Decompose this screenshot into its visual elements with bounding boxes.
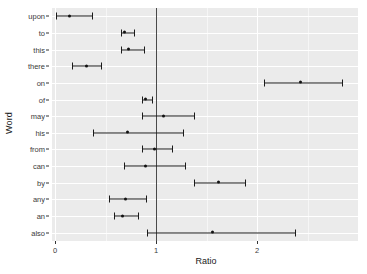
gridline-minor xyxy=(308,8,309,241)
interval-by xyxy=(52,178,358,187)
y-tick-label-upon: upon xyxy=(28,12,45,21)
interval-an xyxy=(52,212,358,221)
whisker-cap-low xyxy=(93,129,94,136)
whisker-cap-high xyxy=(92,13,93,20)
interval-his xyxy=(52,128,358,137)
y-tick-label-of: of xyxy=(39,95,45,104)
interval-of xyxy=(52,95,358,104)
whisker-cap-low xyxy=(72,63,73,70)
whisker-cap-high xyxy=(144,46,145,53)
x-tick-label-1: 1 xyxy=(154,246,158,255)
y-tick-mark xyxy=(46,216,49,217)
plot-panel xyxy=(52,8,358,241)
y-tick-label-may: may xyxy=(31,112,45,121)
whisker-cap-high xyxy=(342,79,343,86)
x-tick-label-2: 2 xyxy=(255,246,259,255)
interval-there xyxy=(52,62,358,71)
whisker-line xyxy=(142,116,195,117)
interval-any xyxy=(52,195,358,204)
x-tick-mark xyxy=(55,241,56,244)
estimate-point xyxy=(144,164,147,167)
whisker-cap-high xyxy=(183,129,184,136)
whisker-cap-low xyxy=(109,196,110,203)
y-tick-mark xyxy=(46,166,49,167)
estimate-point xyxy=(153,147,156,150)
interval-can xyxy=(52,162,358,171)
whisker-cap-low xyxy=(124,163,125,170)
whisker-cap-high xyxy=(134,29,135,36)
whisker-cap-high xyxy=(194,113,195,120)
whisker-cap-high xyxy=(172,146,173,153)
y-tick-mark xyxy=(46,82,49,83)
y-tick-mark xyxy=(46,32,49,33)
whisker-cap-high xyxy=(152,96,153,103)
reference-line xyxy=(156,8,157,241)
x-tick-label-0: 0 xyxy=(53,246,57,255)
whisker-cap-low xyxy=(56,13,57,20)
y-tick-label-on: on xyxy=(37,78,45,87)
x-tick-mark xyxy=(257,241,258,244)
interval-this xyxy=(52,45,358,54)
whisker-line xyxy=(147,232,295,233)
whisker-line xyxy=(142,149,172,150)
y-tick-mark xyxy=(46,16,49,17)
estimate-point xyxy=(162,114,165,117)
estimate-point xyxy=(211,231,214,234)
whisker-cap-low xyxy=(194,179,195,186)
y-tick-mark xyxy=(46,232,49,233)
whisker-cap-low xyxy=(142,146,143,153)
interval-on xyxy=(52,78,358,87)
y-tick-label-by: by xyxy=(37,178,45,187)
y-tick-label-also: also xyxy=(31,228,45,237)
interval-also xyxy=(52,228,358,237)
y-tick-label-there: there xyxy=(28,62,45,71)
estimate-point xyxy=(124,197,127,200)
y-tick-mark xyxy=(46,182,49,183)
whisker-cap-high xyxy=(138,213,139,220)
interval-from xyxy=(52,145,358,154)
whisker-cap-high xyxy=(101,63,102,70)
whisker-line xyxy=(114,216,138,217)
y-tick-label-can: can xyxy=(33,162,45,171)
y-tick-mark xyxy=(46,66,49,67)
interval-to xyxy=(52,28,358,37)
whisker-cap-high xyxy=(185,163,186,170)
interval-may xyxy=(52,112,358,121)
whisker-cap-high xyxy=(295,229,296,236)
y-tick-mark xyxy=(46,99,49,100)
y-tick-label-from: from xyxy=(30,145,45,154)
y-tick-mark xyxy=(46,149,49,150)
estimate-point xyxy=(127,48,130,51)
forest-plot-chart: Word upontothisthereonofmayhisfromcanbya… xyxy=(0,0,367,274)
whisker-cap-low xyxy=(142,96,143,103)
whisker-line xyxy=(264,82,342,83)
whisker-line xyxy=(109,199,146,200)
whisker-cap-low xyxy=(114,213,115,220)
x-axis-title: Ratio xyxy=(55,256,357,266)
estimate-point xyxy=(144,98,147,101)
estimate-point xyxy=(126,131,129,134)
x-tick-mark xyxy=(156,241,157,244)
y-tick-mark xyxy=(46,49,49,50)
y-tick-mark xyxy=(46,116,49,117)
whisker-line xyxy=(56,16,92,17)
whisker-cap-low xyxy=(121,46,122,53)
estimate-point xyxy=(123,31,126,34)
gridline-major-x xyxy=(55,8,56,241)
y-tick-label-to: to xyxy=(39,28,45,37)
whisker-line xyxy=(121,49,144,50)
whisker-line xyxy=(93,132,183,133)
estimate-point xyxy=(68,14,71,17)
x-axis-tick-labels: 012 xyxy=(52,241,358,255)
estimate-point xyxy=(85,64,88,67)
whisker-cap-low xyxy=(121,29,122,36)
y-tick-mark xyxy=(46,199,49,200)
gridline-minor xyxy=(106,8,107,241)
gridline-minor xyxy=(207,8,208,241)
y-tick-label-his: his xyxy=(35,128,45,137)
whisker-cap-low xyxy=(264,79,265,86)
y-tick-label-an: an xyxy=(37,212,45,221)
y-tick-mark xyxy=(46,132,49,133)
gridline-major-x xyxy=(257,8,258,241)
y-tick-label-any: any xyxy=(33,195,45,204)
